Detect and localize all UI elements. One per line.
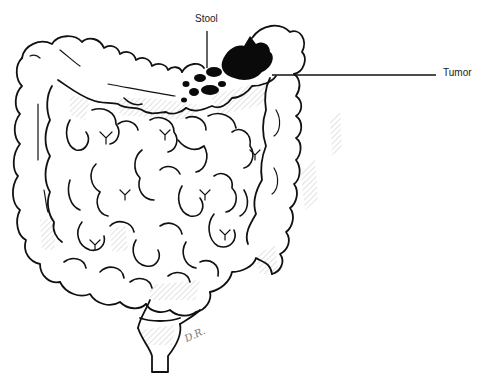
tumor-mass [222,36,273,80]
colon-illustration [0,0,489,387]
shading-hatch [40,80,342,345]
tumor-label: Tumor [443,67,472,78]
colon-outline [13,26,305,372]
colon-diagram: Stool Tumor D.R. [0,0,489,387]
stool-label: Stool [195,13,218,24]
haustra-loops [64,98,280,288]
